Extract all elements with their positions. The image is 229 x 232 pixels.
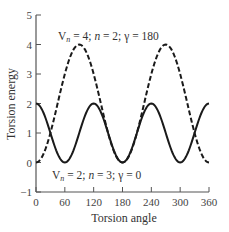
torsion-energy-chart: −1012345 060120180240300360 Vn = 4; n = …	[0, 0, 229, 232]
y-tick-label: 3	[27, 68, 33, 80]
x-tick-label: 0	[33, 196, 39, 208]
x-tick-label: 240	[143, 196, 160, 208]
y-tick-label: 1	[27, 127, 33, 139]
x-axis-tick-labels: 060120180240300360	[33, 196, 218, 208]
x-axis-ticks	[36, 187, 209, 192]
x-tick-label: 180	[114, 196, 131, 208]
x-tick-label: 60	[59, 196, 71, 208]
x-axis-title: Torsion angle	[91, 211, 156, 225]
y-axis-title: Torsion energy	[4, 68, 18, 140]
y-tick-label: 0	[27, 157, 33, 169]
x-tick-label: 300	[172, 196, 189, 208]
y-axis-tick-labels: −1012345	[20, 9, 32, 198]
axes	[36, 15, 209, 192]
x-tick-label: 360	[201, 196, 218, 208]
annotation-bottom: Vn = 2; n = 3; γ = 0	[52, 169, 141, 183]
y-tick-label: 4	[27, 39, 33, 51]
y-tick-label: −1	[20, 186, 32, 198]
annotation-top: Vn = 4; n = 2; γ = 180	[58, 30, 159, 44]
y-tick-label: 5	[27, 9, 33, 21]
x-tick-label: 120	[85, 196, 102, 208]
y-tick-label: 2	[27, 98, 33, 110]
series-n2-dashed-curve	[36, 45, 209, 163]
series-n3-solid-curve	[36, 104, 209, 163]
